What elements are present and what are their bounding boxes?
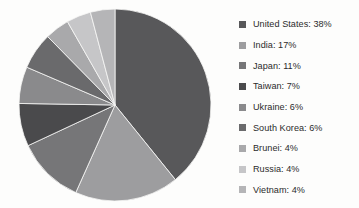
legend-item-south-korea[interactable]: South Korea: 6% <box>239 117 359 138</box>
legend-item-taiwan[interactable]: Taiwan: 7% <box>239 76 359 97</box>
legend-swatch-icon <box>239 166 246 173</box>
legend-item-india[interactable]: India: 17% <box>239 35 359 56</box>
pie-chart-figure: United States: 38% India: 17% Japan: 11%… <box>0 0 359 208</box>
pie-slice-group <box>19 9 211 201</box>
legend-item-ukraine[interactable]: Ukraine: 6% <box>239 97 359 118</box>
legend-item-label: Taiwan: 7% <box>253 81 300 91</box>
legend-item-label: Russia: 4% <box>253 164 300 174</box>
legend-item-united-states[interactable]: United States: 38% <box>239 14 359 35</box>
legend-item-vietnam[interactable]: Vietnam: 4% <box>239 180 359 201</box>
legend-swatch-icon <box>239 186 246 193</box>
legend-swatch-icon <box>239 124 246 131</box>
legend-swatch-icon <box>239 21 246 28</box>
legend-item-label: Brunei: 4% <box>253 143 298 153</box>
legend-item-label: Ukraine: 6% <box>253 102 303 112</box>
legend-item-label: Japan: 11% <box>253 61 301 71</box>
legend-swatch-icon <box>239 104 246 111</box>
legend-swatch-icon <box>239 83 246 90</box>
legend-item-label: Vietnam: 4% <box>253 185 305 195</box>
pie-chart-plot-area <box>18 8 212 202</box>
pie-chart-svg <box>18 8 212 202</box>
legend-swatch-icon <box>239 62 246 69</box>
chart-legend: United States: 38% India: 17% Japan: 11%… <box>239 14 359 200</box>
legend-item-japan[interactable]: Japan: 11% <box>239 55 359 76</box>
legend-swatch-icon <box>239 145 246 152</box>
legend-item-label: South Korea: 6% <box>253 123 323 133</box>
legend-item-label: India: 17% <box>253 40 296 50</box>
legend-item-brunei[interactable]: Brunei: 4% <box>239 138 359 159</box>
legend-swatch-icon <box>239 42 246 49</box>
legend-item-russia[interactable]: Russia: 4% <box>239 159 359 180</box>
legend-item-label: United States: 38% <box>253 19 332 29</box>
